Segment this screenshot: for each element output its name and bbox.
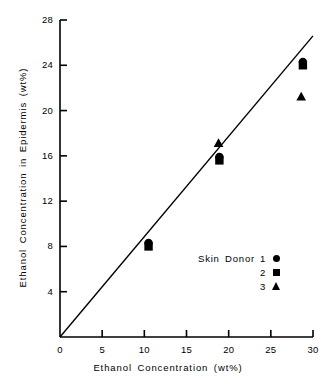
legend-title: Skin Donor — [198, 253, 255, 264]
x-axis-title: Ethanol Concentration (wt%) — [0, 362, 336, 373]
square-icon — [271, 267, 281, 278]
triangle-icon — [271, 281, 281, 292]
legend-label-2: 2 — [260, 267, 266, 278]
data-point-square — [144, 242, 152, 250]
data-point-square — [299, 61, 307, 69]
data-point-triangle — [296, 92, 306, 101]
legend-row: 2 — [198, 265, 281, 279]
circle-icon — [271, 253, 281, 264]
legend: Skin Donor 1 2 3 — [198, 251, 281, 293]
x-axis-ticks — [102, 330, 313, 337]
y-axis-title: Ethanol Concentration in Epidermis (wt%) — [17, 18, 28, 338]
y-axis-ticks — [60, 20, 67, 292]
plot-canvas — [0, 0, 336, 385]
scatter-chart: 481216202428051015202530 Ethanol Concent… — [0, 0, 336, 385]
data-markers — [144, 58, 307, 251]
legend-row: Skin Donor 1 — [198, 251, 281, 265]
legend-label-3: 3 — [260, 281, 266, 292]
data-point-triangle — [214, 138, 224, 147]
data-point-square — [215, 156, 223, 164]
legend-label-1: 1 — [260, 253, 266, 264]
legend-row: 3 — [198, 279, 281, 293]
